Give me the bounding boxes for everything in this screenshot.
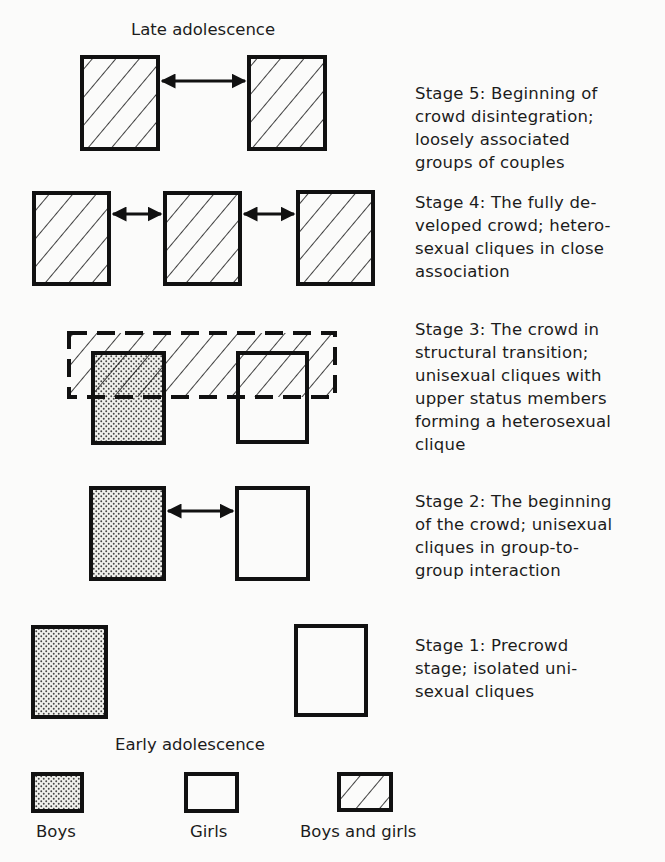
caption-line: loosely associated xyxy=(415,128,598,151)
caption-line: of the crowd; unisexual xyxy=(415,513,612,536)
legend-swatch-girls xyxy=(186,774,237,811)
legend-label-boys-and-girls: Boys and girls xyxy=(300,822,416,841)
legend-label-boys: Boys xyxy=(36,822,76,841)
late-adolescence-label: Late adolescence xyxy=(131,20,275,39)
stage-1-boys-clique xyxy=(33,627,106,717)
caption-line: sexual cliques in close xyxy=(415,237,611,260)
legend-swatch-boys-and-girls xyxy=(339,774,391,810)
stage-4-clique-3 xyxy=(298,192,373,284)
legend-label-girls: Girls xyxy=(190,822,227,841)
legend xyxy=(33,774,391,811)
caption-line: structural transition; xyxy=(415,341,611,364)
stage-4-caption: Stage 4: The fully de- veloped crowd; he… xyxy=(415,191,611,283)
caption-line: Stage 2: The beginning xyxy=(415,490,612,513)
caption-line: veloped crowd; hetero- xyxy=(415,214,611,237)
caption-line: clique xyxy=(415,433,611,456)
stage-1-caption: Stage 1: Precrowd stage; isolated uni- s… xyxy=(415,634,577,703)
stage-5-boys-and-girls-clique-2 xyxy=(249,57,325,149)
stage-2-caption: Stage 2: The beginning of the crowd; uni… xyxy=(415,490,612,582)
stage-5-caption: Stage 5: Beginning of crowd disintegrati… xyxy=(415,82,598,174)
stage-3-heterosexual-clique xyxy=(69,333,335,397)
stage-3-figure xyxy=(69,333,335,443)
caption-line: Stage 5: Beginning of xyxy=(415,82,598,105)
stage-5-boys-and-girls-clique-1 xyxy=(82,57,158,149)
caption-line: groups of couples xyxy=(415,151,598,174)
caption-line: forming a heterosexual xyxy=(415,410,611,433)
caption-line: stage; isolated uni- xyxy=(415,657,577,680)
stage-4-figure xyxy=(34,192,373,284)
caption-line: Stage 4: The fully de- xyxy=(415,191,611,214)
caption-line: Stage 3: The crowd in xyxy=(415,318,611,341)
legend-swatch-boys xyxy=(33,774,82,811)
stage-2-figure xyxy=(91,488,308,579)
caption-line: unisexual cliques with xyxy=(415,364,611,387)
stage-2-girls-clique xyxy=(237,488,308,579)
caption-line: sexual cliques xyxy=(415,680,577,703)
caption-line: Stage 1: Precrowd xyxy=(415,634,577,657)
caption-line: crowd disintegration; xyxy=(415,105,598,128)
stage-5-figure xyxy=(82,57,325,149)
stage-1-figure xyxy=(33,626,366,717)
stage-2-boys-clique xyxy=(91,488,164,579)
stage-1-girls-clique xyxy=(296,626,366,715)
caption-line: upper status members xyxy=(415,387,611,410)
stage-4-clique-1 xyxy=(34,193,109,284)
caption-line: cliques in group-to- xyxy=(415,536,612,559)
early-adolescence-label: Early adolescence xyxy=(115,735,265,754)
stage-3-caption: Stage 3: The crowd in structural transit… xyxy=(415,318,611,456)
caption-line: association xyxy=(415,260,611,283)
caption-line: group interaction xyxy=(415,559,612,582)
stage-4-clique-2 xyxy=(165,193,240,284)
